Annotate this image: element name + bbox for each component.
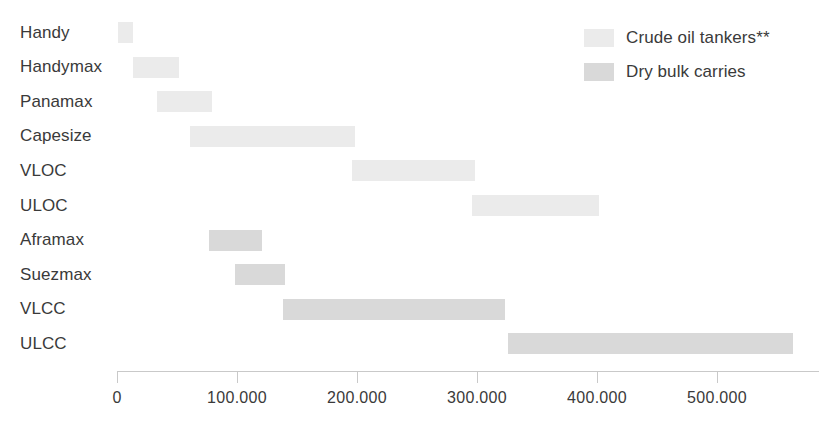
range-bar-chart: HandyHandymaxPanamaxCapesizeVLOCULOCAfra… xyxy=(0,0,819,435)
category-label-vlcc: VLCC xyxy=(20,300,66,317)
legend-swatch-icon-1 xyxy=(584,29,614,47)
category-label-uloc: ULOC xyxy=(20,197,68,214)
category-label-capesize: Capesize xyxy=(20,127,92,144)
legend-label-1: Crude oil tankers** xyxy=(626,28,770,48)
x-axis-tick-0 xyxy=(117,371,118,383)
bar-vloc xyxy=(352,160,474,181)
x-axis-tick-300000 xyxy=(477,371,478,383)
x-axis-line xyxy=(117,371,819,372)
x-axis-tick-label-400000: 400.000 xyxy=(567,389,627,407)
category-label-panamax: Panamax xyxy=(20,93,93,110)
category-label-vloc: VLOC xyxy=(20,162,67,179)
x-axis-tick-400000 xyxy=(597,371,598,383)
x-axis-tick-label-300000: 300.000 xyxy=(447,389,507,407)
legend: Crude oil tankers**Dry bulk carries xyxy=(584,24,770,92)
bar-suezmax xyxy=(235,264,285,285)
bar-handymax xyxy=(133,57,180,78)
category-label-handy: Handy xyxy=(20,24,70,41)
legend-item-1[interactable]: Crude oil tankers** xyxy=(584,24,770,52)
bar-vlcc xyxy=(283,299,505,320)
x-axis-tick-label-0: 0 xyxy=(112,389,121,407)
legend-swatch-icon-2 xyxy=(584,63,614,81)
x-axis-tick-200000 xyxy=(357,371,358,383)
x-axis-tick-label-100000: 100.000 xyxy=(207,389,267,407)
category-label-aframax: Aframax xyxy=(20,231,84,248)
bar-panamax xyxy=(157,91,212,112)
bar-capesize xyxy=(190,126,354,147)
bar-aframax xyxy=(209,230,262,251)
bar-uloc xyxy=(472,195,599,216)
bar-handy xyxy=(118,22,132,43)
x-axis-tick-100000 xyxy=(237,371,238,383)
x-axis-tick-500000 xyxy=(717,371,718,383)
bar-ulcc xyxy=(508,333,792,354)
category-label-suezmax: Suezmax xyxy=(20,266,92,283)
legend-label-2: Dry bulk carries xyxy=(626,62,746,82)
x-axis-tick-label-500000: 500.000 xyxy=(687,389,747,407)
x-axis-tick-label-200000: 200.000 xyxy=(327,389,387,407)
category-label-ulcc: ULCC xyxy=(20,335,67,352)
category-label-handymax: Handymax xyxy=(20,58,102,75)
legend-item-2[interactable]: Dry bulk carries xyxy=(584,58,770,86)
